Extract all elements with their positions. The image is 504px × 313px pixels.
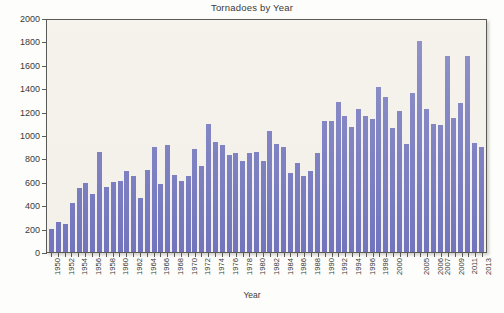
y-axis-tick-mark — [42, 183, 47, 184]
bar — [261, 161, 266, 252]
bar — [410, 93, 415, 252]
bar — [363, 116, 368, 252]
x-axis-tick-slot — [411, 253, 416, 257]
x-axis-tick-mark — [119, 253, 120, 257]
x-axis-tick-label: 1980 — [259, 258, 267, 275]
x-axis-tick-mark — [407, 253, 408, 257]
bar — [138, 198, 143, 252]
bar — [104, 187, 109, 252]
x-axis-tick-mark — [263, 253, 264, 257]
x-axis-tick-mark — [249, 253, 250, 257]
x-axis-tick-slot — [445, 253, 450, 257]
x-axis-tick-mark — [58, 253, 59, 257]
y-axis-tick-label: 0 — [2, 249, 40, 258]
x-axis-tick-slot: 2005 — [418, 253, 423, 257]
y-axis-tick-label: 800 — [2, 155, 40, 164]
x-axis-tick-mark — [420, 253, 421, 257]
bar — [165, 145, 170, 252]
bar — [179, 181, 184, 252]
x-axis-tick-mark — [427, 253, 428, 257]
x-axis-tick-slot: 1984 — [281, 253, 286, 257]
bar — [349, 127, 354, 253]
bar — [451, 118, 456, 252]
x-axis-tick-slot — [124, 253, 129, 257]
x-axis-tick-slot — [288, 253, 293, 257]
bar — [213, 142, 218, 252]
x-axis-tick-mark — [181, 253, 182, 257]
x-axis-tick-label: 2000 — [396, 258, 404, 275]
x-axis-tick-slot — [397, 253, 402, 257]
x-axis-tick-label: 2011 — [471, 258, 479, 274]
x-axis-tick-mark — [393, 253, 394, 257]
x-axis-tick-mark — [359, 253, 360, 257]
plot-frame — [46, 19, 487, 253]
x-axis-tick-label: 1962 — [136, 258, 144, 275]
x-axis-tick-label: 1992 — [341, 258, 349, 275]
x-axis-tick-mark — [338, 253, 339, 257]
x-axis-tick-mark — [133, 253, 134, 257]
y-axis-tick-mark — [42, 113, 47, 114]
x-axis-tick-slot — [69, 253, 74, 257]
x-axis-tick-mark — [85, 253, 86, 257]
x-axis-tick-mark — [441, 253, 442, 257]
x-axis-tick-mark — [366, 253, 367, 257]
x-axis-tick-mark — [304, 253, 305, 257]
bar — [329, 121, 334, 252]
x-axis-tick-slot — [165, 253, 170, 257]
x-axis-tick-slot: 1958 — [103, 253, 108, 257]
bar — [383, 97, 388, 252]
y-axis-tick-mark — [42, 42, 47, 43]
bar-series — [47, 20, 486, 252]
x-axis-tick-label: 1970 — [191, 258, 199, 275]
x-axis-tick-label: 1984 — [287, 258, 295, 275]
x-axis-tick-mark — [318, 253, 319, 257]
x-axis-tick-slot: 1996 — [363, 253, 368, 257]
y-axis-tick-mark — [42, 19, 47, 20]
x-axis-tick-mark — [455, 253, 456, 257]
x-axis-tick-slot: 1970 — [185, 253, 190, 257]
x-axis-tick-slot — [206, 253, 211, 257]
x-axis-tick-mark — [462, 253, 463, 257]
x-axis-ticks: 1950195219541956195819601962196419661968… — [46, 253, 487, 257]
x-axis-tick-label: 1998 — [382, 258, 390, 275]
bar — [254, 152, 259, 252]
x-axis-tick-mark — [290, 253, 291, 257]
x-axis-tick-mark — [106, 253, 107, 257]
x-axis-tick-label: 2013 — [485, 258, 493, 275]
x-axis-tick-slot: 2013 — [480, 253, 485, 257]
bar — [342, 116, 347, 252]
bar — [172, 175, 177, 252]
x-axis-tick-slot: 2011 — [466, 253, 471, 257]
bar — [390, 128, 395, 252]
bar — [118, 181, 123, 252]
bar — [206, 124, 211, 252]
x-axis-tick-mark — [373, 253, 374, 257]
x-axis-tick-label: 1958 — [109, 258, 117, 275]
bar — [404, 144, 409, 252]
bar — [376, 87, 381, 252]
x-axis-tick-label: 1974 — [218, 258, 226, 275]
bar — [295, 163, 300, 252]
bar — [336, 102, 341, 252]
x-axis-tick-slot — [151, 253, 156, 257]
x-axis-tick-slot — [459, 253, 464, 257]
plot-area — [47, 20, 486, 252]
x-axis-tick-label: 1986 — [300, 258, 308, 275]
x-axis-tick-mark — [208, 253, 209, 257]
x-axis-tick-slot: 1982 — [267, 253, 272, 257]
x-axis-tick-label: 1996 — [369, 258, 377, 275]
bar — [145, 170, 150, 252]
x-axis-tick-label: 2007 — [444, 258, 452, 275]
x-axis-tick-mark — [270, 253, 271, 257]
bar — [131, 176, 136, 252]
x-axis-tick-slot: 1976 — [226, 253, 231, 257]
bar — [458, 103, 463, 252]
x-axis-tick-label: 1966 — [163, 258, 171, 275]
bar — [431, 124, 436, 252]
x-axis-tick-mark — [352, 253, 353, 257]
x-axis-tick-slot: 1974 — [213, 253, 218, 257]
bar — [247, 153, 252, 252]
y-axis-tick-mark — [42, 136, 47, 137]
x-axis-tick-label: 1960 — [122, 258, 130, 275]
x-axis-tick-slot: 1952 — [62, 253, 67, 257]
